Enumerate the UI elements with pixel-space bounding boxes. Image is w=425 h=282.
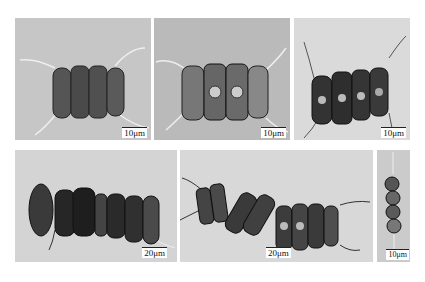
micrograph-panel-b: 10μm [154,18,290,140]
scale-bar-label: 10μm [122,127,147,138]
micrograph-panel-a: 10μm [15,18,151,140]
scale-bar-label: 10μm [261,127,286,138]
diatom-chain-image [15,150,177,262]
micrograph-panel-e: 20μm [180,150,373,262]
diatom-chain-image [15,18,151,140]
scale-bar-label: 10μm [386,249,409,260]
micrograph-panel-d: 20μm [15,150,177,262]
diatom-chain-image [154,18,290,140]
diatom-chain-image [377,150,410,262]
scale-bar-label: 20μm [142,247,167,258]
micrograph-panel-c: 10μm [294,18,410,140]
scale-bar-label: 20μm [266,247,291,258]
diatom-chain-image [294,18,410,140]
scale-bar-label: 10μm [381,127,406,138]
micrograph-panel-f: 10μm [377,150,410,262]
diatom-chain-image [180,150,373,262]
